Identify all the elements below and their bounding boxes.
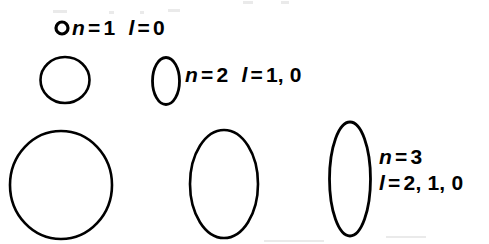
orbit-n2-ellipse (153, 58, 180, 105)
orbit-group-n3 (10, 122, 371, 239)
l-values-row1: 0 (153, 16, 165, 39)
orbit-diagram-figure: n=1l=0 n=2l=1, 0 n=3 l=2, 1, 0 (0, 0, 489, 244)
scan-speckle (264, 240, 324, 242)
n-symbol-row2: n (185, 63, 198, 86)
orbit-n3-ellipse-wide (190, 130, 258, 238)
l-symbol-row2: l (241, 63, 247, 86)
n-line-row3: n=3 (379, 144, 463, 170)
n-value-row1: 1 (104, 16, 116, 39)
n-equals-sign-row3: = (395, 145, 407, 168)
n-value-row3: 3 (411, 145, 423, 168)
orbit-group-n2 (41, 57, 180, 105)
l-equals-sign-row3: = (388, 171, 400, 194)
scan-speckle (140, 11, 144, 14)
orbit-n3-ellipse-narrow (330, 122, 371, 236)
n-equals-sign-row2: = (201, 63, 213, 86)
l-equals-sign-row1: = (137, 16, 149, 39)
n-value-row2: 2 (217, 63, 229, 86)
label-n-equals-2: n=2l=1, 0 (185, 64, 302, 85)
n-symbol-row3: n (379, 145, 392, 168)
label-n-equals-1: n=1l=0 (72, 17, 165, 38)
scan-speckle (109, 11, 114, 14)
orbit-n3-circle (10, 131, 112, 239)
n-equals-sign-row1: = (88, 16, 100, 39)
l-values-row2: 1, 0 (266, 63, 302, 86)
scan-speckle (386, 236, 426, 238)
n-symbol-row1: n (72, 16, 85, 39)
scan-speckle (243, 1, 253, 4)
l-symbol-row1: l (128, 16, 134, 39)
l-symbol-row3: l (379, 171, 385, 194)
orbit-n1-circle (56, 22, 68, 34)
orbit-group-n1 (56, 22, 68, 34)
orbit-n2-circle (41, 57, 90, 103)
l-values-row3: 2, 1, 0 (404, 171, 464, 194)
label-n-equals-3: n=3 l=2, 1, 0 (379, 144, 463, 196)
scan-speckle (53, 10, 67, 13)
l-equals-sign-row2: = (250, 63, 262, 86)
scan-speckle (281, 1, 289, 4)
scan-speckle (168, 9, 180, 12)
l-line-row3: l=2, 1, 0 (379, 170, 463, 196)
